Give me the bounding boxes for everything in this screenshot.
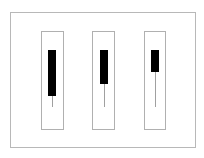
candle-body-2 [100,50,108,84]
candle-body-3 [151,50,159,72]
candle-wick-3 [155,72,156,107]
candle-body-1 [48,50,56,96]
candle-wick-1 [52,96,53,107]
candle-wick-2 [104,84,105,107]
